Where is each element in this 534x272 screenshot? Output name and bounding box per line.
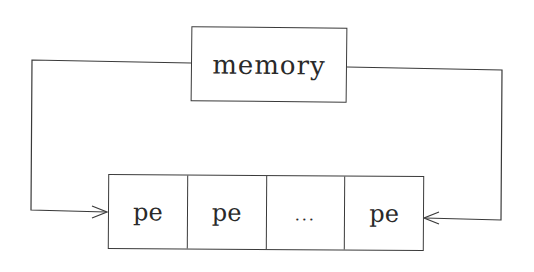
pe-cell-1: pe [109,175,188,248]
memory-label: memory [212,49,326,80]
memory-box: memory [191,26,348,103]
processing-element-array: pe pe ... pe [108,174,424,251]
pe-cell-last: pe [345,176,423,249]
diagram-canvas: memory pe pe ... pe [0,0,534,272]
pe-cell-2: pe [188,176,267,249]
pe-cell-ellipsis: ... [266,176,345,249]
